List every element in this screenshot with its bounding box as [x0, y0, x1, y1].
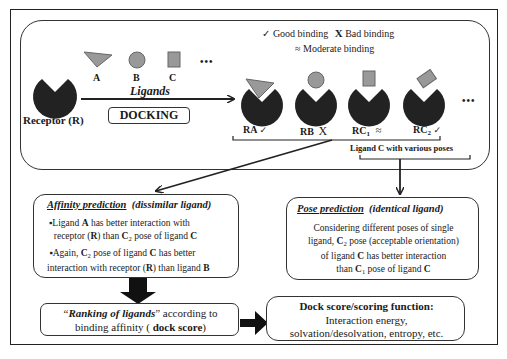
receptor-icon: [33, 79, 77, 119]
complex-rb-label: RB X: [300, 124, 327, 139]
complex-ra-label: RA ✓: [243, 124, 267, 135]
complex-rc1-label: RC1 ≈: [352, 124, 382, 138]
pose-description: Considering different poses of single li…: [287, 222, 480, 278]
poses-bracket: [360, 155, 470, 159]
affinity-bullet-1: ▪Ligand A has better interaction with re…: [49, 217, 197, 245]
check-icon: ✓: [262, 28, 270, 39]
check-icon: ✓: [433, 125, 441, 135]
complex-ra-icon: [241, 79, 283, 126]
complex-rc2-icon: [403, 69, 445, 126]
ligand-b-circle-icon: [129, 52, 145, 68]
ranking-text: “Ranking of ligands” according to bindin…: [41, 306, 240, 334]
pose-prediction-box: Pose prediction (identical ligand) Consi…: [286, 197, 479, 280]
approx-icon: ≈: [375, 124, 381, 136]
arrow-to-affinity: [156, 140, 332, 191]
complex-rc2-label: RC2 ✓: [413, 124, 441, 137]
complexes-bracket: [233, 136, 440, 140]
dock-score-box: Dock score/scoring function: Interaction…: [266, 296, 465, 341]
docking-label: DOCKING: [108, 107, 190, 124]
complexes-ellipsis: •••: [462, 95, 476, 106]
ligand-a-triangle-icon: [84, 52, 112, 67]
pose-title: Pose prediction (identical ligand): [297, 203, 443, 214]
thick-arrow-down: [120, 278, 156, 304]
affinity-bullet-2: ▪Again, C2 pose of ligand C has better i…: [47, 247, 210, 275]
ligand-c-square-icon: [168, 52, 180, 67]
complex-rc1-icon: [348, 71, 390, 126]
dock-score-text: Dock score/scoring function: Interaction…: [267, 300, 466, 341]
check-icon: ✓: [259, 125, 267, 135]
ligands-caption: Ligands: [130, 84, 170, 99]
ligand-a-label: A: [93, 72, 100, 83]
legend-good: ✓ Good binding X Bad binding: [262, 27, 394, 39]
x-icon: X: [318, 124, 327, 138]
thick-arrow-right: [240, 311, 268, 335]
ligand-c-label: C: [169, 72, 176, 83]
ranking-box: “Ranking of ligands” according to bindin…: [40, 303, 239, 336]
receptor-label: Receptor (R): [23, 114, 84, 126]
approx-icon: ≈: [295, 43, 301, 54]
affinity-prediction-box: Affinity prediction (dissimilar ligand) …: [33, 194, 239, 278]
affinity-title: Affinity prediction (dissimilar ligand): [47, 199, 211, 210]
x-icon: X: [335, 27, 343, 39]
complex-rb-icon: [295, 72, 337, 126]
legend-moderate: ≈ Moderate binding: [295, 43, 374, 54]
ligands-ellipsis: •••: [200, 56, 214, 67]
poses-caption: Ligand C with various poses: [350, 143, 453, 153]
ligand-b-label: B: [133, 72, 140, 83]
